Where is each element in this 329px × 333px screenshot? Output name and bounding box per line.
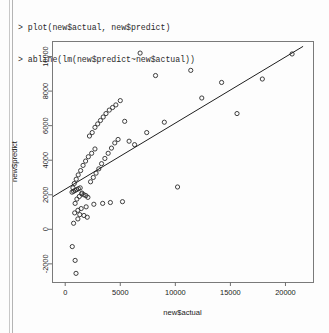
data-point <box>74 177 78 181</box>
data-point <box>109 146 113 150</box>
data-point <box>127 139 131 143</box>
data-point <box>90 130 94 134</box>
data-point <box>81 163 85 167</box>
y-tick-label: 4000 <box>41 152 50 168</box>
data-point <box>70 244 74 248</box>
data-point <box>91 175 95 179</box>
data-point <box>113 141 117 145</box>
r-console-plot-screenshot: > plot(new$actual, new$predict) > abline… <box>0 0 329 333</box>
data-point <box>90 151 94 155</box>
x-tick-label: 15000 <box>220 288 241 297</box>
data-point <box>73 201 77 205</box>
data-points-layer <box>70 51 294 275</box>
x-tick-label: 0 <box>63 288 67 297</box>
data-point <box>162 120 166 124</box>
data-point <box>84 205 88 209</box>
data-point <box>76 173 80 177</box>
y-tick-label: 10000 <box>41 46 50 67</box>
x-tick-label: 5000 <box>112 288 128 297</box>
x-axis-title: new$actual <box>163 308 202 317</box>
data-point <box>120 200 124 204</box>
data-point <box>75 197 79 201</box>
data-point <box>86 155 90 159</box>
data-point <box>260 77 264 81</box>
data-point <box>116 137 120 141</box>
regression-line <box>52 46 303 197</box>
data-point <box>123 119 127 123</box>
data-point <box>118 99 122 103</box>
data-point <box>74 271 78 275</box>
data-point <box>175 185 179 189</box>
data-point <box>200 96 204 100</box>
scatter-plot-figure: 05000100001500020000-2000020004000600080… <box>0 26 329 333</box>
y-tick-label: 6000 <box>41 117 50 133</box>
data-point <box>92 202 96 206</box>
y-tick-label: 2000 <box>41 187 50 203</box>
data-point <box>73 258 77 262</box>
data-point <box>101 201 105 205</box>
data-point <box>108 200 112 204</box>
data-point <box>104 111 108 115</box>
data-point <box>83 159 87 163</box>
data-point <box>219 80 223 84</box>
data-point <box>99 162 103 166</box>
axes-layer <box>48 42 314 287</box>
y-axis-title: new$predict <box>10 140 19 182</box>
data-point <box>103 156 107 160</box>
data-point <box>153 73 157 77</box>
data-point <box>93 147 97 151</box>
chart-canvas: 05000100001500020000-2000020004000600080… <box>0 26 329 333</box>
data-point <box>189 68 193 72</box>
data-point <box>88 180 92 184</box>
data-point <box>138 51 142 55</box>
data-point <box>79 168 83 172</box>
y-tick-label: -2000 <box>41 254 50 273</box>
data-point <box>76 217 80 221</box>
data-point <box>73 211 77 215</box>
data-point <box>235 111 239 115</box>
data-point <box>106 151 110 155</box>
data-point <box>71 221 75 225</box>
data-point <box>114 103 118 107</box>
y-tick-label: 0 <box>41 227 50 231</box>
x-tick-label: 10000 <box>165 288 186 297</box>
regression-line-layer <box>52 46 303 197</box>
plot-box <box>53 42 314 283</box>
x-tick-label: 20000 <box>275 288 296 297</box>
data-point <box>78 213 82 217</box>
y-tick-label: 8000 <box>41 83 50 99</box>
data-point <box>145 130 149 134</box>
